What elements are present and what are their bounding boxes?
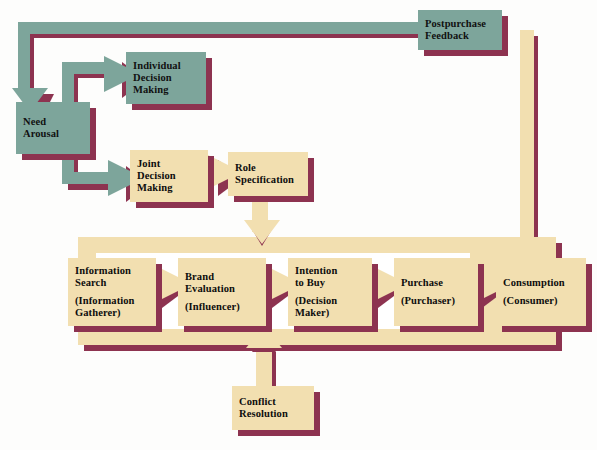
node-individual-line-0: Individual bbox=[133, 60, 199, 72]
flow-branch-rail-lower bbox=[62, 172, 110, 184]
node-conflict-resolution[interactable]: Conflict Resolution bbox=[232, 386, 314, 430]
node-need-arousal-line-1: Arousal bbox=[23, 128, 83, 140]
node-postpurchase-line-1: Feedback bbox=[425, 30, 495, 42]
node-conflict-line-0: Conflict bbox=[239, 396, 307, 408]
diagram-canvas: Need Arousal Individual Decision Making … bbox=[0, 0, 597, 450]
node-information-search[interactable]: Information Search (Information Gatherer… bbox=[68, 258, 156, 326]
node-individual-line-2: Making bbox=[133, 84, 199, 96]
node-need-arousal[interactable]: Need Arousal bbox=[16, 102, 90, 154]
node-role-line-0: Role bbox=[235, 162, 301, 174]
node-role-specification[interactable]: Role Specification bbox=[228, 152, 308, 196]
node-postpurchase-feedback[interactable]: Postpurchase Feedback bbox=[418, 10, 502, 50]
node-joint-line-1: Decision bbox=[137, 170, 201, 182]
node-joint-decision-making[interactable]: Joint Decision Making bbox=[130, 150, 208, 202]
node-joint-line-0: Joint bbox=[137, 158, 201, 170]
node-need-arousal-line-0: Need bbox=[23, 116, 83, 128]
node-consumption-line-0: Consumption bbox=[503, 277, 579, 289]
node-conflict-line-1: Resolution bbox=[239, 408, 307, 420]
node-intention-line-0: Intention bbox=[295, 265, 365, 277]
node-brand-sub-0: (Influencer) bbox=[185, 301, 259, 313]
node-intention-sub-1: Maker) bbox=[295, 307, 365, 319]
node-brand-evaluation[interactable]: Brand Evaluation (Influencer) bbox=[178, 258, 266, 326]
node-search-sub-0: (Information bbox=[75, 295, 149, 307]
node-purchase-sub-0: (Purchaser) bbox=[401, 295, 471, 307]
node-purchase[interactable]: Purchase (Purchaser) bbox=[394, 258, 478, 326]
node-search-line-0: Information bbox=[75, 265, 149, 277]
flow-branch-rail-upper bbox=[62, 62, 110, 74]
node-consumption-sub-0: (Consumer) bbox=[503, 295, 579, 307]
node-intention-to-buy[interactable]: Intention to Buy (Decision Maker) bbox=[288, 258, 372, 326]
node-consumption[interactable]: Consumption (Consumer) bbox=[496, 258, 586, 326]
node-search-line-1: Search bbox=[75, 277, 149, 289]
flow-return-rail bbox=[520, 30, 534, 262]
node-individual-decision-making[interactable]: Individual Decision Making bbox=[126, 52, 206, 104]
node-postpurchase-line-0: Postpurchase bbox=[425, 18, 495, 30]
node-joint-line-2: Making bbox=[137, 182, 201, 194]
node-intention-line-1: to Buy bbox=[295, 277, 365, 289]
node-role-line-1: Specification bbox=[235, 174, 301, 186]
flow-feedback-rail-left bbox=[18, 22, 30, 92]
node-individual-line-1: Decision bbox=[133, 72, 199, 84]
node-intention-sub-0: (Decision bbox=[295, 295, 365, 307]
node-purchase-line-0: Purchase bbox=[401, 277, 471, 289]
node-search-sub-1: Gatherer) bbox=[75, 307, 149, 319]
flow-feedback-rail-top bbox=[18, 22, 438, 34]
node-brand-line-0: Brand bbox=[185, 271, 259, 283]
node-brand-line-1: Evaluation bbox=[185, 283, 259, 295]
